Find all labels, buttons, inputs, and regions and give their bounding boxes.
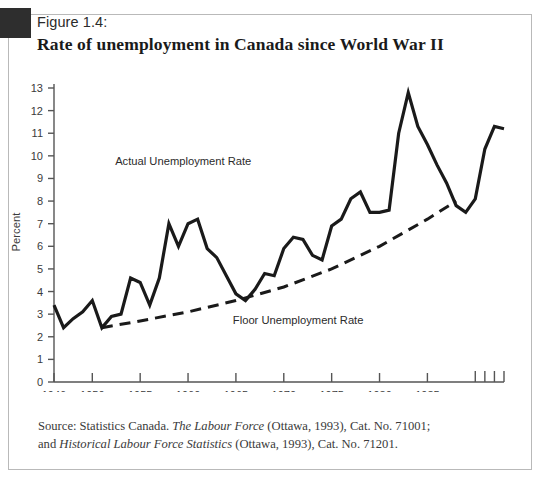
y-tick-label: 5: [37, 263, 43, 275]
x-tick-label: 1985: [415, 389, 439, 392]
dark-square-marker-icon: [0, 8, 31, 38]
y-axis-title: Percent: [10, 212, 22, 252]
caption-1-italic: The Labour Force: [172, 419, 264, 433]
chart-plot-area: 012345678910111213 194619501955196019651…: [8, 62, 516, 392]
chart-annotation-label: Actual Unemployment Rate: [115, 155, 251, 167]
y-tick-label: 10: [31, 150, 43, 162]
unemployment-line-chart: 012345678910111213 194619501955196019651…: [8, 62, 516, 392]
series-line-actual: [54, 93, 504, 328]
caption-2-prefix: and: [38, 437, 59, 451]
y-tick-label: 12: [31, 105, 43, 117]
figure-source-caption: Source: Statistics Canada. The Labour Fo…: [38, 418, 508, 454]
x-tick-label: 93: [499, 391, 509, 392]
x-tick-label: 1946: [42, 389, 66, 392]
y-tick-label: 1: [37, 353, 43, 365]
x-tick-label: 1955: [128, 389, 152, 392]
x-tick-label: 1960: [176, 389, 200, 392]
x-axis: 1946195019551960196519701975198019859091…: [42, 371, 509, 392]
caption-1-suffix: (Ottawa, 1993), Cat. No. 71001;: [264, 419, 430, 433]
x-tick-label: 1965: [224, 389, 248, 392]
y-tick-label: 4: [37, 286, 43, 298]
figure-title: Rate of unemployment in Canada since Wor…: [37, 34, 444, 55]
caption-2-suffix: (Ottawa, 1993), Cat. No. 71201.: [232, 437, 398, 451]
y-tick-label: 6: [37, 240, 43, 252]
y-tick-label: 2: [37, 331, 43, 343]
caption-2-italic: Historical Labour Force Statistics: [59, 437, 232, 451]
x-tick-label: 1970: [272, 389, 296, 392]
chart-series: [54, 93, 504, 328]
y-tick-label: 9: [37, 172, 43, 184]
y-tick-label: 3: [37, 308, 43, 320]
caption-line-2: and Historical Labour Force Statistics (…: [38, 436, 508, 454]
caption-1-prefix: Source: Statistics Canada.: [38, 419, 172, 433]
y-tick-label: 0: [37, 376, 43, 388]
chart-annotation-label: Floor Unemployment Rate: [233, 314, 364, 326]
y-tick-label: 8: [37, 195, 43, 207]
x-tick-label: 1980: [367, 389, 391, 392]
x-tick-label: 1975: [319, 389, 343, 392]
y-axis: 012345678910111213: [31, 82, 54, 388]
x-tick-label: 1950: [80, 389, 104, 392]
figure-number-label: Figure 1.4:: [37, 14, 107, 30]
y-tick-label: 13: [31, 82, 43, 94]
y-tick-label: 11: [32, 127, 43, 139]
y-tick-label: 7: [37, 218, 43, 230]
caption-line-1: Source: Statistics Canada. The Labour Fo…: [38, 418, 508, 436]
